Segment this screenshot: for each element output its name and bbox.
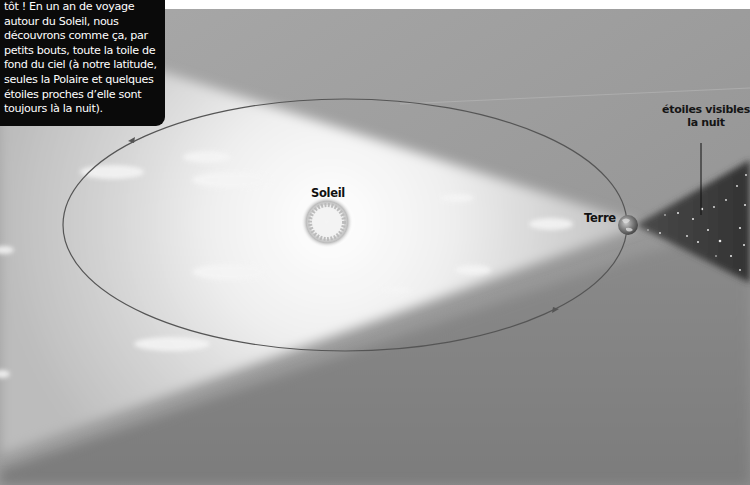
sun-label: Soleil (311, 186, 345, 200)
cloud (529, 218, 573, 230)
sun-icon (310, 205, 344, 239)
caption-line: autour du Soleil, nous (4, 15, 165, 30)
cloud (134, 337, 210, 351)
earth-icon (618, 215, 638, 235)
cloud (183, 151, 231, 163)
caption-line: seules la Polaire et quelques (4, 73, 165, 88)
caption-line: toujours là la nuit). (4, 102, 165, 117)
cloud (192, 172, 272, 188)
caption-line: étoiles proches d’elle sont (4, 88, 165, 103)
cloud (440, 194, 474, 202)
caption-line: petits bouts, toute la toile de (4, 44, 165, 59)
stars-label-line2: la nuit (662, 116, 750, 129)
caption-line: fond du ciel (à notre latitude, (4, 58, 165, 73)
stars-label-line1: étoiles visibles (662, 103, 750, 116)
cloud (379, 286, 411, 294)
caption-line: tôt ! En un an de voyage (4, 0, 165, 15)
orbit-diagram: tôt ! En un an de voyage autour du Solei… (0, 0, 750, 485)
caption-line: découvrons comme ça, par (4, 29, 165, 44)
caption-box: tôt ! En un an de voyage autour du Solei… (0, 0, 165, 126)
stars-visible-label: étoiles visibles la nuit (662, 103, 750, 129)
earth-label: Terre (584, 211, 616, 225)
cloud (455, 265, 491, 275)
cloud (192, 264, 268, 280)
